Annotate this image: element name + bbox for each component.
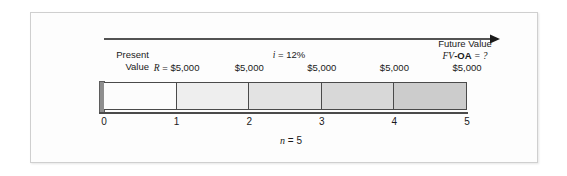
bar-segment-period-1	[104, 83, 177, 109]
tick-label-5: 5	[452, 116, 482, 127]
bar-segment-period-2	[177, 83, 250, 109]
figure-frame: Present Value i = 12% Future Value FV-OA…	[30, 12, 538, 163]
periods-label: n = 5	[251, 135, 331, 147]
payment-amount: $5,000	[170, 62, 199, 73]
cashflow-bar	[104, 82, 467, 110]
future-value-unknown: ?	[483, 51, 488, 61]
periods-equals: =	[285, 135, 296, 146]
future-value-label: Future Value FV-OA = ?	[415, 38, 515, 62]
tick-label-3: 3	[307, 116, 337, 127]
interest-rate-value: 12%	[286, 49, 305, 60]
tick-label-4: 4	[379, 116, 409, 127]
future-value-equals: =	[472, 51, 483, 61]
payment-amount: $5,000	[380, 62, 409, 73]
payment-amount: $5,000	[235, 62, 264, 73]
payment-amount: $5,000	[307, 62, 336, 73]
periods-value: 5	[296, 135, 302, 146]
present-value-line1: Present	[116, 49, 149, 60]
interest-rate-label: i = 12%	[259, 49, 319, 62]
future-value-subscript: -OA	[454, 50, 471, 61]
rent-equals: =	[160, 62, 171, 73]
tick-label-2: 2	[234, 116, 264, 127]
bar-segment-period-4	[322, 83, 395, 109]
axis-baseline	[99, 112, 468, 114]
tick-label-0: 0	[89, 116, 119, 127]
tick-label-1: 1	[162, 116, 192, 127]
future-value-symbol: FV	[443, 51, 455, 61]
bar-segment-period-5	[394, 83, 466, 109]
future-value-line1: Future Value	[438, 38, 492, 49]
bar-segment-period-3	[249, 83, 322, 109]
payment-amount: $5,000	[452, 62, 481, 73]
payment-label-5: $5,000	[422, 62, 512, 74]
interest-rate-equals: =	[275, 49, 286, 60]
